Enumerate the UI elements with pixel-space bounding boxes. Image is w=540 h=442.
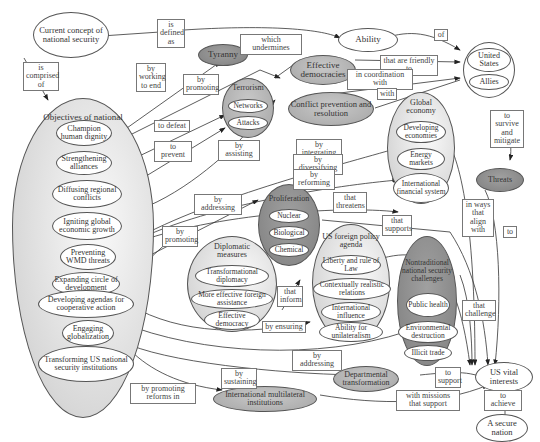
node-current-concept: Current concept of national security bbox=[33, 12, 109, 58]
label-by-assisting: by assisting bbox=[218, 140, 260, 161]
label-to-achieve: to achieve bbox=[484, 390, 522, 411]
group-title: Terrorism bbox=[223, 84, 273, 92]
node-label: Diffusing regional conflicts bbox=[53, 186, 121, 203]
node-developing-economies: Developing economies bbox=[396, 121, 446, 143]
node-label: Biological bbox=[273, 229, 304, 237]
node-conflict-prevention: Conflict prevention and resolution bbox=[288, 92, 374, 126]
node-threats: Threats bbox=[476, 168, 524, 192]
group-title: Nontraditional national security challen… bbox=[398, 259, 456, 283]
label-in-ways-that-align-with: in ways that align with bbox=[462, 199, 494, 237]
node-transformational-diplomacy: Transformational diplomacy bbox=[195, 265, 269, 287]
node-biological: Biological bbox=[269, 226, 309, 240]
node-contextually-realistic-relations: Contextually realistic relations bbox=[313, 278, 391, 300]
node-label: Developing economies bbox=[397, 124, 445, 140]
label-by-promoting-reforms-in: by promoting reforms in bbox=[130, 383, 196, 404]
node-label: Igniting global economic growth bbox=[53, 218, 121, 235]
node-energy-markets: Energy markets bbox=[397, 148, 445, 170]
label-in-coordination-with: in coordination with bbox=[347, 69, 413, 90]
node-effective-democracy: Effective democracy bbox=[204, 310, 260, 330]
node-label: More effective foreign assistance bbox=[192, 291, 272, 307]
node-label: International influence bbox=[322, 304, 380, 320]
node-label: Networks bbox=[233, 102, 262, 110]
node-label: Strengthening alliances bbox=[57, 155, 111, 172]
node-label: Ability for unilateralism bbox=[320, 324, 382, 340]
node-label: Champion human dignity bbox=[57, 125, 111, 142]
node-ability: Ability bbox=[338, 28, 398, 52]
node-attacks: Attacks bbox=[228, 116, 268, 130]
label-is-defined-as: is defined as bbox=[157, 19, 185, 48]
node-label: Tyranny bbox=[208, 50, 238, 59]
node-label: Developing agendas for cooperative actio… bbox=[39, 296, 133, 313]
node-transforming-us-institutions: Transforming US national security instit… bbox=[38, 346, 134, 382]
node-intl-multilateral-institutions: International multilateral institutions bbox=[213, 386, 317, 412]
node-engaging-globalization: Engaging globalization bbox=[62, 320, 114, 346]
label-that-challenge: that challenge bbox=[462, 300, 496, 321]
node-ability-for-unilateralism: Ability for unilateralism bbox=[319, 322, 383, 342]
label-that-supports: that supports bbox=[382, 215, 412, 236]
node-label: International financial system bbox=[394, 180, 448, 196]
node-label: Chemical bbox=[275, 246, 304, 254]
node-preventing-wmd-threats: Preventing WMD threats bbox=[60, 244, 116, 270]
node-public-health: Public health bbox=[406, 293, 450, 317]
node-label: Allies bbox=[479, 78, 498, 86]
node-secure-nation: A secure nation bbox=[476, 414, 528, 442]
group-title: US foreign policy agenda bbox=[313, 233, 389, 250]
node-label: Effective democracies bbox=[291, 61, 355, 80]
node-label: Current concept of national security bbox=[34, 26, 108, 44]
node-label: Energy markets bbox=[398, 151, 444, 167]
node-nuclear: Nuclear bbox=[269, 209, 309, 223]
label-of: of bbox=[434, 29, 448, 41]
label-by-reforming: by reforming bbox=[293, 169, 335, 190]
node-label: Illicit trade bbox=[411, 349, 444, 357]
node-diffusing-regional-conflicts: Diffusing regional conflicts bbox=[52, 180, 122, 208]
node-label: Departmental transformation bbox=[334, 371, 398, 388]
node-united-states: United States bbox=[467, 48, 511, 72]
label-with: with bbox=[377, 88, 397, 100]
node-label: Conflict prevention and resolution bbox=[289, 100, 373, 118]
node-label: Preventing WMD threats bbox=[61, 249, 115, 266]
label-that-threatens: that threatens bbox=[333, 192, 367, 213]
label-by-addressing-2: by addressing bbox=[292, 350, 342, 371]
node-allies: Allies bbox=[469, 74, 509, 90]
node-label: Liberty and rule of Law bbox=[322, 257, 380, 273]
node-departmental-transformation: Departmental transformation bbox=[333, 366, 399, 392]
label-by-promoting-1: by promoting bbox=[183, 74, 219, 95]
group-global-economy: Global economy Developing economies Ener… bbox=[387, 92, 455, 204]
label-by-ensuring: by ensuring bbox=[262, 321, 306, 333]
node-illicit-trade: Illicit trade bbox=[404, 345, 452, 361]
label-to: to bbox=[503, 226, 517, 238]
label-to-support: to support bbox=[435, 367, 461, 388]
group-terrorism: Terrorism Networks Attacks bbox=[222, 78, 274, 138]
node-label: Attacks bbox=[237, 119, 260, 127]
label-by-sustaining: by sustaining bbox=[221, 368, 257, 389]
label-by-promoting-2: by promoting bbox=[162, 226, 198, 247]
node-international-financial-system: International financial system bbox=[393, 173, 449, 203]
node-label: Nuclear bbox=[277, 212, 301, 220]
node-champion-human-dignity: Champion human dignity bbox=[56, 120, 112, 146]
label-by-addressing-1: by addressing bbox=[194, 194, 242, 215]
group-us-foreign-policy-agenda: US foreign policy agenda Liberty and rul… bbox=[312, 224, 390, 342]
node-label: Threats bbox=[488, 176, 512, 184]
label-which-undermines: which undermines bbox=[240, 34, 302, 55]
node-developing-agendas: Developing agendas for cooperative actio… bbox=[38, 290, 134, 318]
node-label: Ability bbox=[355, 35, 381, 44]
label-by-working-to-end: by working to end bbox=[136, 63, 166, 92]
group-title: Global economy bbox=[388, 99, 454, 116]
node-label: Contextually realistic relations bbox=[314, 281, 390, 297]
label-with-missions-that-support: with missions that support bbox=[396, 390, 460, 411]
label-to-defeat: to defeat bbox=[154, 120, 190, 132]
node-liberty-rule-of-law: Liberty and rule of Law bbox=[321, 255, 381, 275]
node-us-vital-interests: US vital interests bbox=[475, 362, 533, 392]
label-to-survive-and-mitigate: to survive and mitigate bbox=[490, 110, 524, 148]
node-international-influence: International influence bbox=[321, 302, 381, 322]
node-label: A secure nation bbox=[477, 419, 527, 437]
node-label: Engaging globalization bbox=[63, 325, 113, 342]
label-that-inform: that inform bbox=[277, 286, 303, 307]
node-environmental-destruction: Environmental destruction bbox=[398, 321, 458, 343]
node-strengthening-alliances: Strengthening alliances bbox=[56, 151, 112, 175]
node-label: Transformational diplomacy bbox=[196, 268, 268, 284]
node-label: Public health bbox=[408, 301, 447, 309]
node-networks: Networks bbox=[228, 99, 268, 113]
node-more-effective-foreign-assistance: More effective foreign assistance bbox=[191, 289, 273, 309]
group-diplomatic-measures: Diplomatic measures Transformational dip… bbox=[187, 236, 277, 332]
